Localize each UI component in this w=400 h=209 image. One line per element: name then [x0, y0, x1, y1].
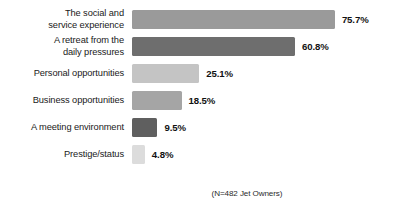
- bar-segment: [132, 91, 182, 110]
- bar-rows: The social and service experience 75.7% …: [0, 6, 400, 168]
- bar-area: 4.8%: [132, 141, 400, 168]
- category-label: A meeting environment: [0, 122, 132, 133]
- value-label: 75.7%: [342, 14, 369, 25]
- bar-area: 60.8%: [132, 33, 400, 60]
- bar-segment: [132, 145, 145, 164]
- table-row: A meeting environment 9.5%: [0, 114, 400, 141]
- chart-footnote: (N=482 Jet Owners): [132, 182, 362, 200]
- bar-segment: [132, 118, 157, 137]
- value-label: 4.8%: [152, 149, 173, 160]
- bar-segment: [132, 37, 295, 56]
- category-label: Business opportunities: [0, 95, 132, 106]
- category-label: A retreat from the daily pressures: [0, 35, 132, 57]
- category-label: Personal opportunities: [0, 68, 132, 79]
- value-label: 9.5%: [164, 122, 185, 133]
- category-label: The social and service experience: [0, 8, 132, 30]
- value-label: 60.8%: [302, 41, 329, 52]
- bar-segment: [132, 64, 199, 83]
- table-row: Prestige/status 4.8%: [0, 141, 400, 168]
- category-label: Prestige/status: [0, 149, 132, 160]
- value-label: 18.5%: [189, 95, 216, 106]
- table-row: Personal opportunities 25.1%: [0, 60, 400, 87]
- table-row: A retreat from the daily pressures 60.8%: [0, 33, 400, 60]
- bar-segment: [132, 10, 335, 29]
- table-row: The social and service experience 75.7%: [0, 6, 400, 33]
- bar-area: 25.1%: [132, 60, 400, 87]
- table-row: Business opportunities 18.5%: [0, 87, 400, 114]
- bar-area: 18.5%: [132, 87, 400, 114]
- value-label: 25.1%: [206, 68, 233, 79]
- bar-area: 9.5%: [132, 114, 400, 141]
- bar-chart: The social and service experience 75.7% …: [0, 0, 400, 209]
- bar-area: 75.7%: [132, 6, 400, 33]
- footnote-text: (N=482 Jet Owners): [212, 189, 283, 198]
